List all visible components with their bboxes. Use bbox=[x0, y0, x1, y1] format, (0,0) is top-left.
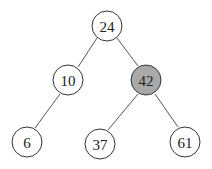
edge-24-10 bbox=[78, 38, 97, 67]
edge-42-61 bbox=[155, 94, 178, 127]
svg-text:10: 10 bbox=[61, 73, 76, 89]
edge-10-6 bbox=[35, 94, 60, 128]
node-42-highlighted: 42 bbox=[131, 65, 161, 95]
node-24: 24 bbox=[92, 11, 122, 41]
edge-42-37 bbox=[108, 94, 138, 130]
svg-text:6: 6 bbox=[23, 135, 31, 151]
svg-text:42: 42 bbox=[139, 73, 154, 89]
binary-tree-diagram: 24 10 42 6 37 61 bbox=[0, 0, 212, 169]
svg-text:37: 37 bbox=[93, 137, 109, 153]
edge-24-42 bbox=[117, 38, 138, 66]
svg-text:24: 24 bbox=[100, 19, 116, 35]
node-6: 6 bbox=[12, 127, 42, 157]
svg-text:61: 61 bbox=[178, 135, 193, 151]
node-10: 10 bbox=[53, 65, 83, 95]
node-61: 61 bbox=[170, 127, 200, 157]
node-37: 37 bbox=[85, 129, 115, 159]
